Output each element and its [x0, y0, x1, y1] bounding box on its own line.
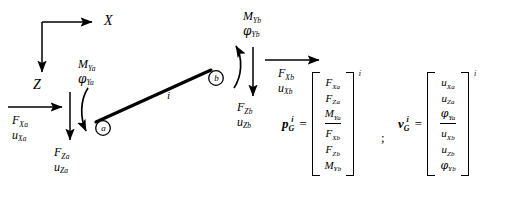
axis-label-x: X: [104, 14, 113, 28]
rotation-ya-label: φYa: [78, 72, 96, 87]
matrix-entry: φYa: [439, 106, 457, 122]
displacement-vector-equation: vGi = uXa uZa φYa uXb uZb: [398, 72, 469, 176]
matrix-entry: MYb: [324, 158, 342, 174]
displacement-vector-equals: =: [414, 116, 427, 132]
displacement-vector-entries: uXa uZa φYa uXb uZb φYb: [435, 72, 461, 176]
moment-yb-arc: [234, 46, 241, 88]
bracket-right: [346, 72, 354, 176]
disp-xa-label: uXa: [12, 128, 28, 143]
matrix-entry: FZb: [324, 142, 342, 158]
force-vector-bracket-superscript: i: [359, 69, 361, 78]
figure-canvas: X Z a b i MYa φYa FXa uXa FZa uZa MYb: [0, 0, 507, 218]
displacement-vector-name: vGi: [398, 116, 414, 132]
matrix-entry: FZa: [324, 91, 342, 107]
matrix-entry: φYb: [439, 158, 457, 174]
force-vector-equation: pGi = FXa FZa MYa FXb FZb: [282, 72, 354, 176]
force-vector-bracket: FXa FZa MYa FXb FZb MYb: [312, 72, 354, 176]
force-vector-name: pGi: [282, 116, 299, 132]
node-a-force-x-labels: FXa uXa: [12, 113, 28, 142]
matrix-entry: MYa: [324, 106, 342, 122]
moment-ya-label: MYa: [78, 57, 96, 72]
force-vector-equals: =: [299, 116, 312, 132]
force-za-label: FZa: [54, 145, 70, 160]
node-a-moment-labels: MYa φYa: [78, 57, 96, 86]
force-vector-entries: FXa FZa MYa FXb FZb MYb: [320, 72, 346, 176]
beam-element-line: [96, 70, 211, 122]
matrix-entry: FXb: [324, 126, 342, 142]
matrix-entry: FXa: [324, 75, 342, 91]
moment-ya-arc: [82, 88, 88, 131]
rotation-yb-label: φYb: [243, 24, 261, 39]
matrix-entry: uXb: [439, 126, 457, 142]
bracket-left: [312, 72, 320, 176]
node-a-label: a: [99, 124, 108, 133]
disp-zb-label: uZb: [237, 115, 253, 130]
node-b-label: b: [212, 74, 221, 83]
matrix-entry: uZb: [439, 142, 457, 158]
moment-yb-label: MYb: [243, 9, 261, 24]
matrix-entry: uZa: [439, 91, 457, 107]
node-b-moment-labels: MYb φYb: [243, 9, 261, 38]
node-b-force-z-labels: FZb uZb: [237, 100, 253, 129]
displacement-vector-bracket-superscript: i: [474, 69, 476, 78]
force-xa-label: FXa: [12, 113, 28, 128]
displacement-vector-bracket: uXa uZa φYa uXb uZb φYb: [427, 72, 469, 176]
matrix-entry: uXa: [439, 75, 457, 91]
force-zb-label: FZb: [237, 100, 253, 115]
axis-label-z: Z: [33, 78, 41, 92]
equation-separator: ;: [381, 130, 385, 146]
node-a-force-z-labels: FZa uZa: [54, 145, 70, 174]
element-label-i: i: [167, 90, 170, 101]
bracket-right: [461, 72, 469, 176]
disp-za-label: uZa: [54, 160, 70, 175]
bracket-left: [427, 72, 435, 176]
